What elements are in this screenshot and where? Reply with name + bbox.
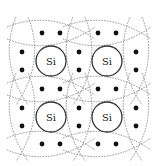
atom-label: Si <box>46 112 56 123</box>
electron-dot <box>96 31 101 36</box>
electron-dot <box>58 87 63 92</box>
bond-outline <box>9 73 35 161</box>
atom-label: Si <box>102 56 112 67</box>
electron-dot <box>134 68 139 73</box>
electron-dot <box>134 124 139 129</box>
bond-outline <box>123 17 149 105</box>
bond-outline <box>9 17 35 105</box>
electron-dot <box>114 142 119 147</box>
bond-outline <box>66 17 92 105</box>
electron-dot <box>96 142 101 147</box>
silicon-atoms: Si Si Si Si <box>36 46 122 132</box>
atom-label: Si <box>102 112 112 123</box>
bond-outline <box>7 131 95 157</box>
electron-dot <box>77 106 82 111</box>
electron-dot <box>20 106 25 111</box>
covalent-bond-outlines <box>7 17 151 161</box>
electron-pairs <box>20 31 139 147</box>
bond-outline <box>7 20 95 46</box>
electron-dot <box>20 124 25 129</box>
electron-dot <box>20 68 25 73</box>
electron-dot <box>58 31 63 36</box>
bond-outline <box>123 73 149 161</box>
electron-dot <box>114 31 119 36</box>
electron-dot <box>40 142 45 147</box>
electron-dot <box>134 106 139 111</box>
electron-dot <box>20 50 25 55</box>
bond-outline <box>63 131 151 157</box>
atom-si: Si <box>36 46 66 76</box>
electron-dot <box>134 50 139 55</box>
electron-dot <box>77 124 82 129</box>
atom-si: Si <box>36 102 66 132</box>
electron-dot <box>96 87 101 92</box>
electron-dot <box>58 142 63 147</box>
atom-label: Si <box>46 56 56 67</box>
atom-si: Si <box>92 102 122 132</box>
electron-dot <box>77 68 82 73</box>
atom-si: Si <box>92 46 122 76</box>
bond-outline <box>66 73 92 161</box>
electron-dot <box>40 87 45 92</box>
electron-dot <box>114 87 119 92</box>
silicon-lattice-diagram: Si Si Si Si <box>0 0 158 166</box>
electron-dot <box>40 31 45 36</box>
electron-dot <box>77 50 82 55</box>
bond-outline <box>63 20 151 46</box>
